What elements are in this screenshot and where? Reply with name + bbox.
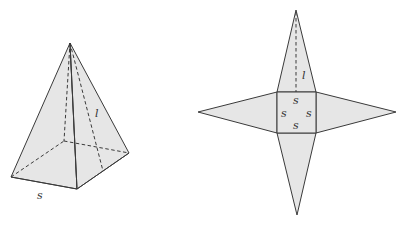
square-pyramid: l s: [11, 43, 129, 202]
net-bottom-triangle: [277, 133, 316, 215]
pyramid-label-side: s: [37, 189, 43, 202]
pyramid-net: l s s s s: [198, 10, 396, 215]
pyramid-label-slant-height: l: [95, 107, 99, 120]
diagram-canvas: l s l s s s s: [0, 0, 404, 227]
net-label-side-left: s: [281, 107, 287, 120]
net-right-triangle: [316, 92, 396, 133]
net-label-side-right: s: [306, 107, 312, 120]
net-label-slant-height: l: [302, 69, 306, 82]
net-label-side-top: s: [293, 94, 299, 107]
pyramid-left-face: [11, 43, 77, 189]
pyramid-right-face: [70, 43, 129, 189]
net-left-triangle: [198, 92, 277, 133]
net-label-side-bottom: s: [293, 119, 299, 132]
